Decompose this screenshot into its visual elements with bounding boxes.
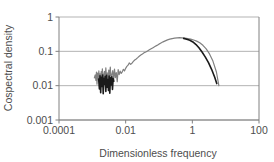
y-tick-label: 1: [47, 11, 53, 23]
y-tick-label: 0.001: [27, 114, 53, 126]
x-tick-label: 100: [250, 124, 268, 136]
chart-container: 0.00010.011100 10.10.010.001 Dimensionle…: [0, 0, 274, 162]
x-axis-title: Dimensionless frequency: [99, 147, 217, 159]
x-tick-label: 0.01: [115, 124, 136, 136]
y-tick-label: 0.1: [38, 45, 53, 57]
y-tick-label: 0.01: [33, 79, 54, 91]
cospectral-density-chart: 0.00010.011100 10.10.010.001 Dimensionle…: [0, 0, 274, 162]
x-tick-label: 1: [189, 124, 195, 136]
y-axis-title: Cospectral density: [2, 24, 14, 111]
x-tick-label: 0.0001: [43, 124, 75, 136]
